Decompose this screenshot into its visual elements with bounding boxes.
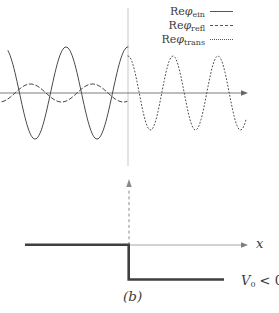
- x-axis-label: x: [256, 236, 263, 251]
- phi-symbol: φ: [183, 19, 191, 32]
- legend-subscript: ein: [193, 10, 205, 19]
- v0-symbol: V: [241, 273, 250, 288]
- phi-symbol: φ: [176, 33, 184, 46]
- legend-subscript: trans: [184, 38, 205, 47]
- legend-label-refl: Reφrefl: [169, 19, 205, 33]
- legend-prefix: Re: [161, 33, 176, 46]
- legend-item-ein: Reφein: [161, 5, 233, 19]
- legend-item-trans: Reφtrans: [161, 33, 233, 47]
- caption-b: (b): [123, 288, 142, 304]
- legend-prefix: Re: [169, 19, 184, 32]
- figure-step-potential-waves: Reφein Reφrefl Reφtrans x V0 < 0 (b): [0, 0, 279, 313]
- figure-canvas: [0, 0, 279, 313]
- legend-label-ein: Reφein: [170, 5, 205, 19]
- legend-label-trans: Reφtrans: [161, 33, 205, 47]
- wave-legend: Reφein Reφrefl Reφtrans: [161, 5, 233, 46]
- legend-line-sample-solid: [210, 11, 233, 12]
- legend-line-sample-dashed: [210, 25, 233, 26]
- v0-relation: < 0: [255, 273, 279, 288]
- legend-line-sample-dotted: [210, 39, 233, 40]
- potential-x-axis-arrowhead: [241, 242, 248, 247]
- potential-step-line: [25, 245, 224, 280]
- step-position-arrowhead: [126, 179, 131, 187]
- phi-symbol: φ: [185, 5, 193, 18]
- legend-prefix: Re: [170, 5, 185, 18]
- wave-x-axis-arrowhead: [241, 90, 248, 95]
- v0-label: V0 < 0: [241, 273, 279, 289]
- legend-subscript: refl: [191, 24, 205, 33]
- legend-item-refl: Reφrefl: [161, 19, 233, 33]
